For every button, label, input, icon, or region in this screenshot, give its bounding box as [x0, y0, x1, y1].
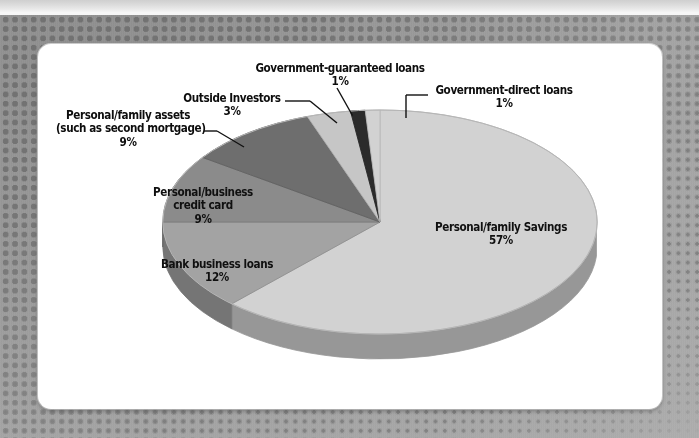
label-gov-direct-pct: 1%: [414, 97, 594, 110]
label-family-savings-pct: 57%: [429, 234, 573, 247]
label-government-guaranteed-loans: Government-guaranteed loans 1%: [246, 62, 435, 89]
label-bank-business-loans: Bank business loans 12%: [159, 258, 276, 285]
label-gov-guaranteed-text: Government-guaranteed loans: [255, 61, 424, 75]
label-credit-card-line1: Personal/business: [153, 185, 253, 199]
screenshot-root: Government-guaranteed loans 1% Governmen…: [0, 0, 699, 438]
label-gov-direct-text: Government-direct loans: [435, 83, 572, 97]
label-personal-family-assets: Personal/family assets (such as second m…: [56, 109, 200, 149]
label-bank-loans-text: Bank business loans: [161, 257, 273, 271]
label-personal-family-savings: Personal/family Savings 57%: [429, 221, 573, 248]
label-family-assets-line1: Personal/family assets: [66, 108, 190, 122]
label-outside-investors-text: Outside Investors: [183, 91, 280, 105]
label-government-direct-loans: Government-direct loans 1%: [414, 84, 594, 111]
label-family-savings-text: Personal/family Savings: [435, 220, 567, 234]
label-personal-business-credit-card: Personal/business credit card 9%: [145, 186, 262, 226]
label-gov-guaranteed-pct: 1%: [246, 75, 435, 88]
label-bank-loans-pct: 12%: [159, 271, 276, 284]
label-family-assets-line2: (such as second mortgage): [56, 121, 206, 135]
label-credit-card-pct: 9%: [145, 213, 262, 226]
label-credit-card-line2: credit card: [173, 198, 232, 212]
label-family-assets-pct: 9%: [56, 136, 200, 149]
